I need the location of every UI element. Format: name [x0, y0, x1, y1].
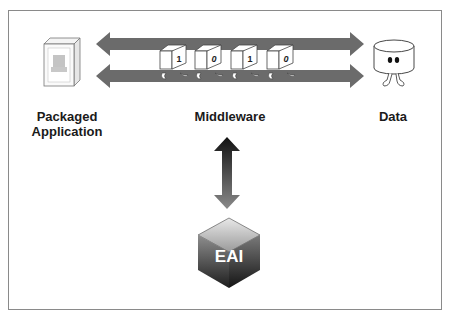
database-cylinder-character-icon — [372, 38, 416, 90]
bit-cube-3: 1 — [231, 45, 259, 79]
svg-text:0: 0 — [211, 54, 216, 64]
eai-hexagon-cube-icon: EAI — [198, 218, 260, 288]
packaged-application-label-line2: Application — [32, 124, 103, 139]
bit-cube-4: 0 — [267, 45, 295, 79]
bit-cube-2: 0 — [195, 45, 223, 79]
bit-cube-1: 1 — [160, 45, 188, 79]
packaged-application-label-line1: Packaged — [37, 109, 98, 124]
svg-text:0: 0 — [283, 54, 288, 64]
svg-text:1: 1 — [247, 54, 252, 64]
svg-text:1: 1 — [176, 54, 181, 64]
packaged-application-box-icon — [42, 36, 82, 88]
middleware-label: Middleware — [180, 109, 280, 124]
packaged-application-label: Packaged Application — [24, 109, 110, 139]
vertical-double-arrow — [214, 137, 240, 209]
data-label: Data — [370, 109, 416, 124]
bit-cubes-group: 1 0 1 0 — [158, 45, 298, 85]
eai-label: EAI — [215, 247, 243, 266]
